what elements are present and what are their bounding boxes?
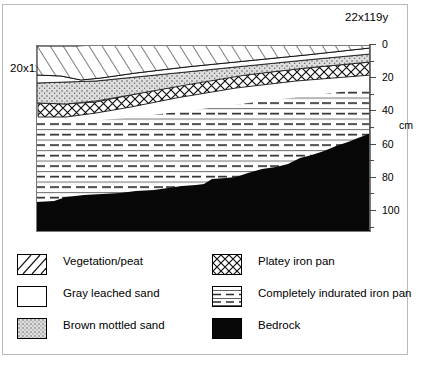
- legend-item-platey-iron-pan: Platey iron pan: [212, 252, 402, 284]
- swatch-platey-iron-pan: [212, 254, 242, 275]
- legend-item-gray-leached-sand: Gray leached sand: [17, 284, 207, 316]
- axis-tick-0: [369, 44, 376, 45]
- axis-tick-label-80: 80: [382, 172, 394, 182]
- swatch-vegetation-peat: [17, 254, 47, 275]
- depth-axis: 020406080100: [369, 44, 425, 232]
- legend-item-vegetation-peat: Vegetation/peat: [17, 252, 207, 284]
- axis-tick-70: [369, 160, 374, 161]
- legend-label-platey-iron-pan: Platey iron pan: [258, 255, 335, 267]
- axis-tick-50: [369, 127, 374, 128]
- legend-item-brown-mottled-sand: Brown mottled sand: [17, 316, 207, 348]
- axis-tick-40: [369, 110, 376, 111]
- legend: Vegetation/peat Gray leached sand: [17, 252, 395, 348]
- axis-tick-label-20: 20: [382, 72, 394, 82]
- soil-profile-figure: 20x119y 22x119y cm: [0, 0, 432, 370]
- profile-svg: [36, 45, 371, 232]
- swatch-brown-mottled-sand: [17, 318, 47, 339]
- legend-label-gray-leached-sand: Gray leached sand: [63, 287, 160, 299]
- swatch-gray-leached-sand: [17, 286, 47, 307]
- legend-label-bedrock: Bedrock: [258, 319, 300, 331]
- axis-tick-30: [369, 94, 374, 95]
- axis-tick-label-100: 100: [382, 205, 400, 215]
- swatch-bedrock: [212, 318, 242, 339]
- axis-tick-110: [369, 227, 374, 228]
- axis-tick-10: [369, 61, 374, 62]
- site-label-right: 22x119y: [345, 11, 388, 23]
- legend-column-left: Vegetation/peat Gray leached sand: [17, 252, 207, 348]
- legend-label-brown-mottled-sand: Brown mottled sand: [63, 319, 165, 331]
- legend-item-bedrock: Bedrock: [212, 316, 402, 348]
- swatch-indurated-iron-pan: [212, 286, 242, 307]
- axis-tick-90: [369, 193, 374, 194]
- axis-tick-20: [369, 77, 376, 78]
- profile-cross-section: [36, 45, 371, 232]
- legend-label-indurated-iron-pan: Completely indurated iron pan: [258, 287, 411, 299]
- axis-tick-label-60: 60: [382, 139, 394, 149]
- axis-tick-label-0: 0: [382, 39, 388, 49]
- axis-line: [369, 44, 370, 230]
- axis-tick-60: [369, 144, 376, 145]
- axis-tick-80: [369, 177, 376, 178]
- legend-column-right: Platey iron pan: [212, 252, 402, 348]
- legend-label-vegetation-peat: Vegetation/peat: [63, 255, 143, 267]
- axis-tick-100: [369, 210, 376, 211]
- axis-tick-label-40: 40: [382, 105, 394, 115]
- legend-item-indurated-iron-pan: Completely indurated iron pan: [212, 284, 402, 316]
